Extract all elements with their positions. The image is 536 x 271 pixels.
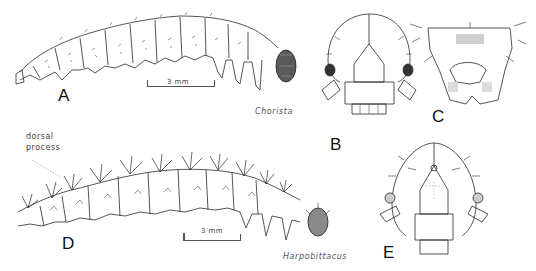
head-e-drawing xyxy=(380,143,488,254)
illustration-art xyxy=(0,0,536,271)
head-b-drawing xyxy=(322,14,416,114)
annotation-line-1: dorsal xyxy=(26,132,60,143)
panel-label-d: D xyxy=(62,235,74,252)
genus-label-harpobittacus: Harpobittacus xyxy=(283,253,347,261)
dorsal-process-annotation: dorsal process xyxy=(26,132,60,154)
panel-label-e: E xyxy=(383,244,394,261)
panel-label-c: C xyxy=(432,108,444,125)
scale-bar-top-label: 3 mm xyxy=(167,79,189,86)
head-c-drawing xyxy=(410,22,526,104)
larva-d-drawing xyxy=(18,152,330,240)
scientific-figure-plate: A B C D E Chorista Harpobittacus dorsal … xyxy=(0,0,536,271)
panel-label-b: B xyxy=(330,136,341,153)
panel-label-a: A xyxy=(58,87,69,104)
scale-bar-bottom-label: 3 mm xyxy=(201,228,223,235)
annotation-line-2: process xyxy=(26,143,60,154)
larva-a-drawing xyxy=(16,12,296,90)
scale-bar-bottom-line xyxy=(183,234,241,241)
genus-label-chorista: Chorista xyxy=(255,108,293,116)
